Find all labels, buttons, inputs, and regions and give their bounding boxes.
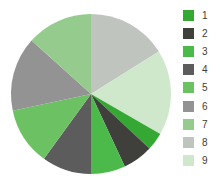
legend-label-6: 6 <box>202 101 208 112</box>
legend-label-3: 3 <box>202 46 208 57</box>
legend-item-9[interactable]: 9 <box>183 152 221 170</box>
legend-swatch-8 <box>183 137 194 148</box>
legend-item-3[interactable]: 3 <box>183 42 221 60</box>
pie-svg <box>0 0 180 181</box>
legend-item-2[interactable]: 2 <box>183 24 221 42</box>
legend-item-7[interactable]: 7 <box>183 115 221 133</box>
legend-item-5[interactable]: 5 <box>183 79 221 97</box>
pie-chart-figure: 123456789 <box>0 0 221 181</box>
legend-swatch-4 <box>183 64 194 75</box>
legend-item-8[interactable]: 8 <box>183 133 221 151</box>
legend-swatch-7 <box>183 119 194 130</box>
legend-item-6[interactable]: 6 <box>183 97 221 115</box>
legend-label-5: 5 <box>202 82 208 93</box>
pie-plot-area <box>0 0 180 181</box>
legend-item-1[interactable]: 1 <box>183 6 221 24</box>
legend-label-7: 7 <box>202 119 208 130</box>
legend-swatch-1 <box>183 10 194 21</box>
chart-legend: 123456789 <box>183 6 221 176</box>
legend-label-2: 2 <box>202 28 208 39</box>
legend-swatch-3 <box>183 46 194 57</box>
pie-slice-group <box>11 14 171 174</box>
legend-label-8: 8 <box>202 137 208 148</box>
legend-swatch-6 <box>183 101 194 112</box>
legend-label-4: 4 <box>202 64 208 75</box>
legend-label-9: 9 <box>202 155 208 166</box>
legend-swatch-9 <box>183 155 194 166</box>
legend-swatch-5 <box>183 82 194 93</box>
legend-swatch-2 <box>183 28 194 39</box>
legend-label-1: 1 <box>202 10 208 21</box>
legend-item-4[interactable]: 4 <box>183 61 221 79</box>
